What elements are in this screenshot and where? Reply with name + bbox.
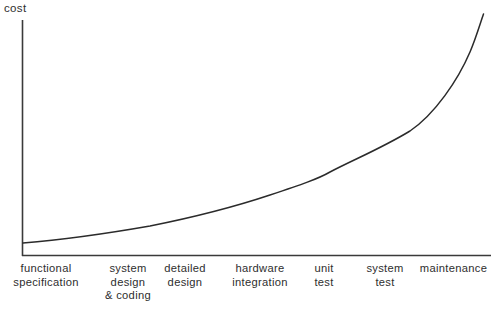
x-axis-tick-labels: functional specification system design &…: [0, 262, 491, 310]
cost-of-change-chart: cost functional specification system des…: [0, 0, 491, 310]
x-tick-hardware-integration: hardware integration: [222, 262, 298, 289]
x-tick-system-test: system test: [355, 262, 415, 289]
x-tick-unit-test: unit test: [300, 262, 348, 289]
x-tick-detailed-design: detailed design: [148, 262, 222, 289]
cost-curve-line: [23, 14, 484, 243]
x-tick-maintenance: maintenance: [416, 262, 491, 276]
x-tick-functional-specification: functional specification: [0, 262, 92, 289]
